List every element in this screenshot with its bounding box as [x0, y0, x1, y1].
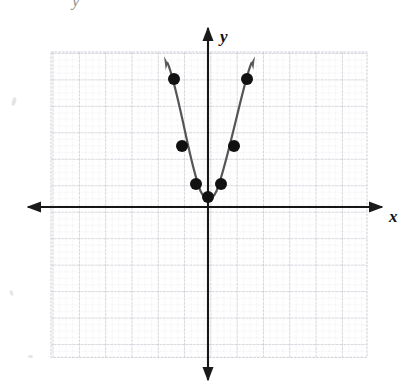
- data-point-marker: [190, 178, 202, 190]
- data-point-marker: [215, 178, 227, 190]
- data-point-marker: [168, 73, 180, 85]
- data-point-marker: [228, 140, 240, 152]
- y-axis-label: y: [218, 27, 228, 46]
- graph-figure: y y: [0, 0, 405, 388]
- data-point-marker: [176, 140, 188, 152]
- coordinate-plane-svg: y x: [0, 0, 405, 388]
- x-axis-label: x: [388, 207, 398, 226]
- data-point-marker: [202, 191, 214, 203]
- data-point-marker: [241, 73, 253, 85]
